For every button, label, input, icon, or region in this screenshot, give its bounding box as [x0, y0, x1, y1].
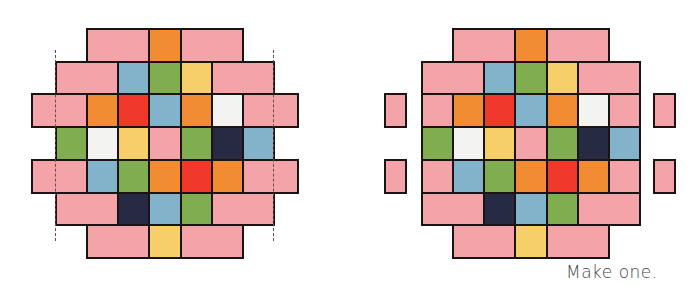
exploded-pink-patch — [546, 28, 610, 63]
exploded-green-patch — [483, 159, 516, 194]
assembled-green-patch — [55, 126, 88, 161]
assembled-yellow-patch — [180, 61, 213, 95]
exploded-navy-patch — [577, 126, 610, 161]
exploded-white-patch — [452, 126, 485, 161]
exploded-pink-patch — [421, 61, 485, 95]
assembled-pink-patch — [55, 192, 119, 226]
exploded-green-patch — [514, 61, 548, 95]
exploded-pink-patch — [608, 159, 641, 194]
exploded-white-patch — [577, 93, 610, 128]
exploded-blue-patch — [514, 192, 548, 226]
exploded-orange-patch — [514, 159, 548, 194]
exploded-detached-pink-strip — [653, 93, 676, 128]
exploded-pink-patch — [577, 61, 641, 95]
assembled-yellow-patch — [117, 126, 150, 161]
assembled-blue-patch — [117, 61, 150, 95]
assembled-pink-patch — [86, 28, 150, 63]
exploded-pink-patch — [421, 93, 454, 128]
exploded-pink-patch — [577, 192, 641, 226]
exploded-pink-patch — [452, 224, 516, 259]
assembled-pink-patch — [242, 159, 299, 194]
assembled-green-patch — [148, 61, 182, 95]
exploded-green-patch — [546, 192, 579, 226]
assembled-orange-patch — [148, 28, 182, 63]
assembled-pink-patch — [242, 93, 299, 128]
assembled-red-patch — [180, 159, 213, 194]
exploded-red-patch — [546, 159, 579, 194]
assembled-pink-patch — [55, 61, 119, 95]
exploded-orange-patch — [452, 93, 485, 128]
assembled-navy-patch — [117, 192, 150, 226]
assembled-orange-patch — [148, 159, 182, 194]
caption-make-one: Make one. — [566, 262, 658, 282]
assembled-pink-patch — [31, 93, 88, 128]
assembled-white-patch — [211, 93, 244, 128]
exploded-detached-pink-strip — [384, 159, 407, 194]
exploded-pink-patch — [421, 159, 454, 194]
assembled-blue-patch — [148, 192, 182, 226]
exploded-blue-patch — [608, 126, 641, 161]
exploded-red-patch — [483, 93, 516, 128]
assembled-green-patch — [180, 126, 213, 161]
assembled-orange-patch — [180, 93, 213, 128]
exploded-pink-patch — [608, 93, 641, 128]
quilt-diagram — [0, 0, 695, 284]
assembled-green-patch — [180, 192, 213, 226]
exploded-detached-pink-strip — [384, 93, 407, 128]
exploded-blue-patch — [483, 61, 516, 95]
assembled-green-patch — [117, 159, 150, 194]
seam-guide-dashed-line — [55, 50, 56, 241]
assembled-orange-patch — [211, 159, 244, 194]
assembled-navy-patch — [211, 126, 244, 161]
assembled-pink-patch — [211, 192, 275, 226]
exploded-navy-patch — [483, 192, 516, 226]
exploded-yellow-patch — [483, 126, 516, 161]
assembled-blue-patch — [148, 93, 182, 128]
exploded-blue-patch — [514, 93, 548, 128]
assembled-pink-patch — [180, 224, 244, 259]
exploded-pink-patch — [514, 126, 548, 161]
exploded-orange-patch — [514, 28, 548, 63]
assembled-pink-patch — [86, 224, 150, 259]
exploded-detached-pink-strip — [653, 159, 676, 194]
assembled-yellow-patch — [148, 224, 182, 259]
exploded-orange-patch — [546, 93, 579, 128]
assembled-orange-patch — [86, 93, 119, 128]
exploded-green-patch — [546, 126, 579, 161]
assembled-pink-patch — [180, 28, 244, 63]
exploded-pink-patch — [452, 28, 516, 63]
seam-guide-dashed-line — [273, 50, 274, 241]
exploded-pink-patch — [421, 192, 485, 226]
exploded-blue-patch — [452, 159, 485, 194]
assembled-blue-patch — [86, 159, 119, 194]
assembled-pink-patch — [211, 61, 275, 95]
assembled-white-patch — [86, 126, 119, 161]
exploded-yellow-patch — [546, 61, 579, 95]
exploded-pink-patch — [546, 224, 610, 259]
assembled-pink-patch — [148, 126, 182, 161]
assembled-red-patch — [117, 93, 150, 128]
assembled-blue-patch — [242, 126, 275, 161]
exploded-green-patch — [421, 126, 454, 161]
assembled-pink-patch — [31, 159, 88, 194]
exploded-yellow-patch — [514, 224, 548, 259]
exploded-orange-patch — [577, 159, 610, 194]
